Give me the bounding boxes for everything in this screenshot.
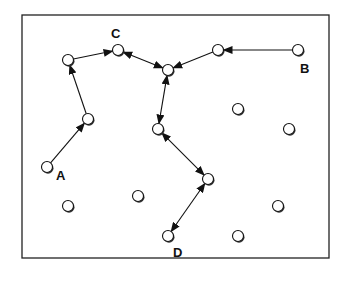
- node: [153, 124, 164, 135]
- frame: [22, 15, 329, 258]
- node: [213, 45, 224, 56]
- edge-n3-n4: [73, 51, 112, 59]
- label-d: D: [173, 245, 182, 260]
- node-a: [42, 162, 53, 173]
- node: [203, 174, 214, 185]
- label-c: C: [111, 26, 121, 41]
- node-d: [163, 231, 174, 242]
- label-b: B: [300, 61, 309, 76]
- label-a: A: [56, 168, 66, 183]
- node: [133, 191, 144, 202]
- edge-n1-n2: [51, 123, 85, 163]
- node: [163, 65, 174, 76]
- edge-n4-n5: [123, 52, 163, 68]
- edge-n2-n3: [70, 65, 86, 114]
- node: [284, 124, 295, 135]
- node-b: [293, 45, 304, 56]
- edge-n6-n5: [173, 52, 213, 68]
- node-c: [113, 45, 124, 56]
- network-diagram: A B C D: [0, 0, 363, 286]
- edge-n9-n11: [171, 184, 205, 232]
- node: [233, 231, 244, 242]
- edge-n5-n8: [159, 75, 167, 123]
- node: [273, 201, 284, 212]
- node: [63, 55, 74, 66]
- edge-n8-n9: [162, 133, 204, 175]
- node: [83, 114, 94, 125]
- node: [233, 104, 244, 115]
- node: [63, 201, 74, 212]
